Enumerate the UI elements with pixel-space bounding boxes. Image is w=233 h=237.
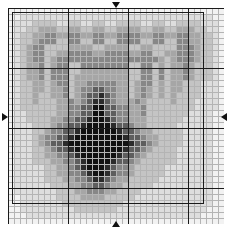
center-column-marker-bottom-icon bbox=[112, 221, 120, 227]
pattern-cell-layer[interactable] bbox=[8, 8, 224, 224]
cross-stitch-chart bbox=[0, 0, 233, 237]
center-row-marker-right-icon bbox=[221, 113, 227, 121]
pattern-grid[interactable] bbox=[8, 8, 225, 225]
center-row-marker-left-icon bbox=[2, 113, 8, 121]
stitch-cell[interactable] bbox=[218, 218, 224, 224]
center-column-marker-top-icon bbox=[112, 2, 120, 8]
